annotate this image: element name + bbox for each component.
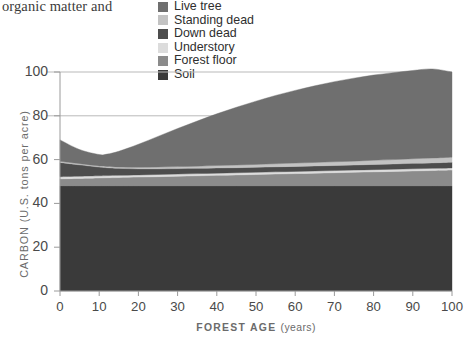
x-tick-label-0: 0: [45, 299, 75, 314]
x-tick-label-90: 90: [398, 299, 428, 314]
x-tick-label-30: 30: [163, 299, 193, 314]
x-tick-label-10: 10: [84, 299, 114, 314]
y-tick-label-100: 100: [12, 63, 48, 79]
x-axis-title: FOREST AGE (years): [60, 322, 452, 333]
x-tick-label-80: 80: [359, 299, 389, 314]
x-tick-label-50: 50: [241, 299, 271, 314]
x-tick-label-70: 70: [319, 299, 349, 314]
y-axis-title: CARBON (U.S. tons per acre): [18, 104, 30, 284]
area-layer-soil: [60, 186, 452, 291]
x-axis-title-unit: (years): [281, 322, 316, 333]
area-layer-live-tree: [60, 69, 452, 167]
chart-page: organic matter and Live treeStanding dea…: [0, 0, 468, 345]
y-tick-label-0: 0: [12, 282, 48, 298]
x-tick-label-40: 40: [202, 299, 232, 314]
stacked-area-plot: [0, 0, 468, 345]
x-tick-label-20: 20: [123, 299, 153, 314]
x-tick-label-60: 60: [280, 299, 310, 314]
x-axis-title-main: FOREST AGE: [196, 322, 276, 333]
x-tick-label-100: 100: [437, 299, 467, 314]
